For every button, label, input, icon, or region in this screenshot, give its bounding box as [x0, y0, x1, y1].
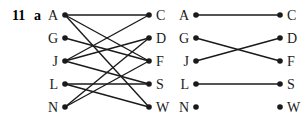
node-label-S: S [287, 77, 295, 92]
node-W [277, 104, 283, 110]
node-label-J: J [184, 54, 190, 69]
node-N [62, 104, 68, 110]
node-D [277, 35, 283, 41]
node-label-S: S [156, 77, 164, 92]
node-label-W: W [156, 100, 170, 115]
edge-A-W [65, 15, 149, 107]
node-label-G: G [48, 31, 58, 46]
node-label-W: W [287, 100, 301, 115]
node-label-N: N [48, 100, 58, 115]
node-A [62, 12, 68, 18]
node-J [193, 58, 199, 64]
node-N [193, 104, 199, 110]
node-W [146, 104, 152, 110]
node-label-F: F [287, 54, 295, 69]
graph-full: AGJLNCDFSW [48, 8, 170, 115]
node-label-A: A [179, 8, 190, 23]
graph-matching: AGJLNCDFSW [179, 8, 301, 115]
node-A [193, 12, 199, 18]
node-C [277, 12, 283, 18]
node-L [62, 81, 68, 87]
node-label-J: J [53, 54, 59, 69]
node-label-L: L [49, 77, 58, 92]
node-label-D: D [287, 31, 297, 46]
node-S [277, 81, 283, 87]
node-C [146, 12, 152, 18]
node-label-L: L [180, 77, 189, 92]
node-F [146, 58, 152, 64]
node-J [62, 58, 68, 64]
node-G [62, 35, 68, 41]
node-L [193, 81, 199, 87]
node-S [146, 81, 152, 87]
node-D [146, 35, 152, 41]
bipartite-graphs-figure: 11 a AGJLNCDFSW AGJLNCDFSW [0, 0, 307, 116]
node-F [277, 58, 283, 64]
node-label-F: F [156, 54, 164, 69]
node-G [193, 35, 199, 41]
node-label-C: C [156, 8, 165, 23]
node-label-N: N [179, 100, 189, 115]
question-part: a [34, 8, 41, 23]
edge-L-W [65, 84, 149, 107]
node-label-G: G [179, 31, 189, 46]
node-label-D: D [156, 31, 166, 46]
edge-N-D [65, 38, 149, 107]
node-label-C: C [287, 8, 296, 23]
question-number: 11 [12, 8, 25, 23]
node-label-A: A [48, 8, 59, 23]
